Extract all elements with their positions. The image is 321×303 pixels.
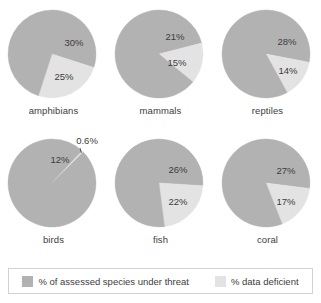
slice-value-amphibians-threat: 30%	[64, 37, 84, 48]
slice-value-fish-threat: 26%	[168, 164, 188, 175]
pie-category-label-amphibians: amphibians	[29, 105, 79, 116]
legend-swatch-threat	[22, 276, 33, 287]
pie-category-label-birds: birds	[43, 234, 64, 245]
slice-value-birds-deficient: 0.6%	[76, 135, 98, 146]
slice-value-fish-deficient: 22%	[168, 196, 188, 207]
slice-value-coral-threat: 27%	[276, 165, 296, 176]
pie-graphic-coral: 27%17%	[216, 133, 320, 233]
pie-category-label-fish: fish	[153, 234, 168, 245]
pie-chart-birds: 12%0.6%birds	[0, 129, 107, 258]
pie-category-label-reptiles: reptiles	[252, 105, 283, 116]
pie-category-label-coral: coral	[257, 234, 278, 245]
pie-graphic-reptiles: 28%14%	[216, 4, 320, 104]
pie-chart-figure: 30%25%amphibians21%15%mammals28%14%repti…	[0, 0, 321, 303]
slice-value-reptiles-threat: 28%	[277, 36, 297, 47]
legend-entry-deficient: % data deficient	[215, 276, 299, 287]
legend-swatch-deficient	[215, 276, 226, 287]
slice-value-coral-deficient: 17%	[276, 196, 296, 207]
pie-slice-coral-threat	[266, 139, 310, 189]
legend-label-threat: % of assessed species under threat	[38, 276, 189, 287]
pie-chart-reptiles: 28%14%reptiles	[214, 0, 321, 129]
pie-graphic-birds: 12%0.6%	[2, 133, 106, 233]
chart-legend: % of assessed species under threat% data…	[8, 268, 313, 294]
pie-chart-mammals: 21%15%mammals	[107, 0, 214, 129]
slice-value-mammals-threat: 21%	[165, 31, 185, 42]
slice-value-amphibians-deficient: 25%	[54, 71, 74, 82]
pie-graphic-amphibians: 30%25%	[2, 4, 106, 104]
slice-value-mammals-deficient: 15%	[167, 57, 187, 68]
pie-category-label-mammals: mammals	[140, 105, 182, 116]
pie-chart-fish: 26%22%fish	[107, 129, 214, 258]
pie-chart-amphibians: 30%25%amphibians	[0, 0, 107, 129]
pie-chart-coral: 27%17%coral	[214, 129, 321, 258]
legend-entry-threat: % of assessed species under threat	[22, 276, 189, 287]
pie-graphic-mammals: 21%15%	[109, 4, 213, 104]
legend-label-deficient: % data deficient	[231, 276, 299, 287]
pie-chart-grid: 30%25%amphibians21%15%mammals28%14%repti…	[0, 0, 321, 258]
pie-slice-fish-threat	[159, 139, 203, 186]
slice-value-reptiles-deficient: 14%	[278, 65, 298, 76]
slice-value-birds-threat: 12%	[50, 154, 70, 165]
pie-slice-fish-rest	[115, 139, 165, 227]
pie-graphic-fish: 26%22%	[109, 133, 213, 233]
